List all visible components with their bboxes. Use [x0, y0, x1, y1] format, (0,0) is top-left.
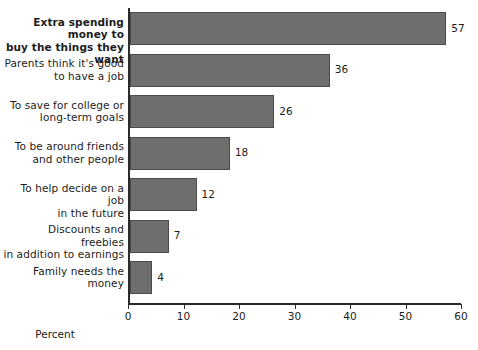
category-label: To be around friends and other people [2, 140, 124, 165]
bar-value-label: 36 [335, 63, 348, 75]
bar-value-label: 18 [235, 146, 248, 158]
category-label: Family needs the money [2, 265, 124, 290]
x-tick-label: 0 [125, 310, 132, 322]
x-tick-label: 30 [288, 310, 301, 322]
x-tick [239, 304, 240, 309]
bar [130, 178, 197, 211]
x-tick [406, 304, 407, 309]
bar [130, 95, 274, 128]
category-label: To help decide on a job in the future [2, 182, 124, 220]
bar-chart: 0102030405060 573626181274 Extra spendin… [0, 0, 478, 350]
bar [130, 12, 446, 45]
bar-value-label: 4 [157, 271, 164, 283]
bar [130, 137, 230, 170]
x-tick-label: 10 [177, 310, 190, 322]
bar-value-label: 26 [279, 105, 292, 117]
x-tick-label: 20 [232, 310, 245, 322]
category-label: Discounts and freebies in addition to ea… [2, 223, 124, 261]
bar [130, 220, 169, 253]
x-tick [184, 304, 185, 309]
x-tick-label: 60 [454, 310, 467, 322]
bar [130, 54, 330, 87]
bar [130, 261, 152, 294]
category-label: Parents think it's good to have a job [2, 57, 124, 82]
bar-value-label: 12 [202, 188, 215, 200]
x-tick [461, 304, 462, 309]
x-tick [295, 304, 296, 309]
category-label: To save for college or long-term goals [2, 99, 124, 124]
x-tick-label: 40 [343, 310, 356, 322]
bar-value-label: 57 [451, 22, 464, 34]
x-tick [350, 304, 351, 309]
bar-value-label: 7 [174, 229, 181, 241]
x-axis-title-text: Percent [35, 328, 75, 340]
x-tick [128, 304, 129, 309]
x-axis-title: Percent [0, 328, 478, 340]
x-tick-label: 50 [399, 310, 412, 322]
